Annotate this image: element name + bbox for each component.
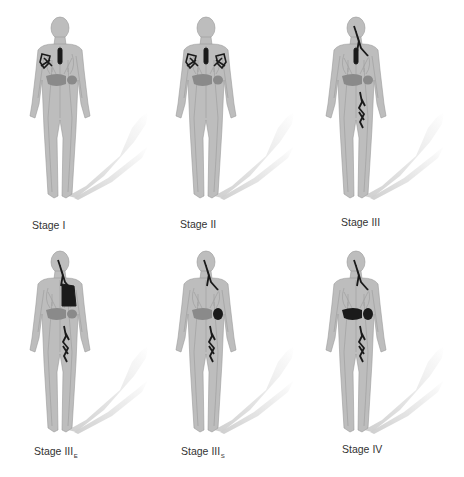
- stage-numeral: IV: [372, 443, 382, 455]
- stage-subscript: E: [74, 453, 78, 459]
- figure-stage-3e: [8, 242, 158, 442]
- stage-label-stage-2: Stage II: [180, 218, 216, 230]
- spleen: [363, 76, 373, 85]
- shadow: [364, 112, 444, 200]
- stage-word: Stage: [32, 219, 59, 231]
- stage-word: Stage: [34, 445, 61, 457]
- shadow: [214, 346, 294, 434]
- liver: [342, 308, 362, 320]
- panel-stage-2: [154, 8, 304, 243]
- stage-label-stage-3s: Stage IIIS: [181, 445, 225, 459]
- figure-stage-4: [304, 242, 454, 442]
- stage-word: Stage: [342, 443, 369, 455]
- spleen: [213, 76, 223, 85]
- stage-label-stage-3: Stage III: [341, 216, 380, 228]
- liver: [46, 308, 66, 320]
- figure-stage-1: [8, 8, 158, 208]
- liver: [342, 74, 362, 86]
- shadow: [364, 346, 444, 434]
- stage-word: Stage: [181, 445, 208, 457]
- shadow: [68, 112, 148, 200]
- stage-subscript: S: [221, 453, 225, 459]
- stage-numeral: III: [64, 445, 73, 457]
- shadow: [214, 112, 294, 200]
- liver: [46, 74, 66, 86]
- panel-stage-1: [8, 8, 158, 243]
- panel-stage-3: [304, 8, 454, 243]
- figure-stage-3: [304, 8, 454, 208]
- panel-stage-3s: [154, 242, 304, 477]
- stage-label-stage-4: Stage IV: [342, 443, 382, 455]
- stage-numeral: I: [62, 219, 65, 231]
- shadow: [68, 346, 148, 434]
- spleen: [67, 310, 77, 319]
- liver: [192, 74, 212, 86]
- stage-numeral: II: [210, 218, 216, 230]
- stage-word: Stage: [341, 216, 368, 228]
- spleen: [213, 308, 223, 320]
- panel-stage-4: [304, 242, 454, 477]
- stage-label-stage-3e: Stage IIIE: [34, 445, 78, 459]
- liver: [192, 308, 212, 320]
- panel-stage-3e: [8, 242, 158, 477]
- spleen: [67, 76, 77, 85]
- spleen: [363, 308, 373, 320]
- stage-numeral: III: [211, 445, 220, 457]
- figure-stage-2: [154, 8, 304, 208]
- stage-word: Stage: [180, 218, 207, 230]
- figure-stage-3s: [154, 242, 304, 442]
- stage-numeral: III: [371, 216, 380, 228]
- stage-label-stage-1: Stage I: [32, 219, 65, 231]
